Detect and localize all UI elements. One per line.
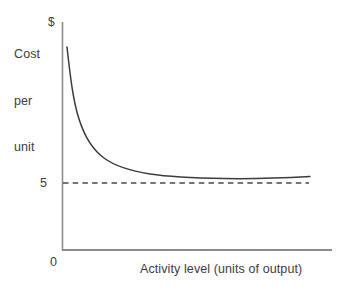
- y-axis-tick-label-5: 5: [40, 176, 47, 192]
- cost-per-unit-curve: [67, 47, 310, 179]
- cost-per-unit-chart: Cost per unit $ 5 0 Activity level (unit…: [0, 0, 343, 293]
- y-axis-unit-label: $: [48, 15, 55, 31]
- y-axis-title-line-1: Cost: [14, 47, 40, 63]
- y-axis-title-line-2: per: [14, 94, 40, 110]
- chart-plot-area: [0, 0, 343, 293]
- x-axis-title: Activity level (units of output): [140, 262, 302, 278]
- y-axis-title: Cost per unit: [14, 16, 40, 187]
- origin-label: 0: [50, 255, 57, 271]
- y-axis-title-line-3: unit: [14, 140, 40, 156]
